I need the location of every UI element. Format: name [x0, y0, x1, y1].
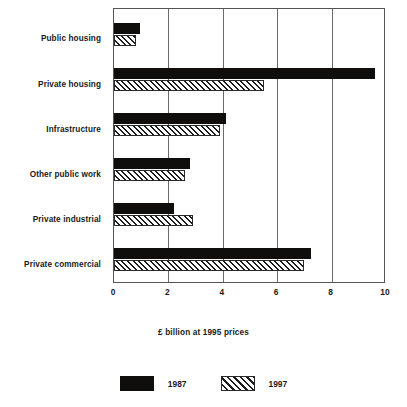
- legend-entry-1997: 1997: [221, 376, 288, 391]
- x-tick-6: 6: [274, 287, 279, 297]
- x-axis-tick-labels: 0 2 4 6 8 10: [113, 287, 385, 303]
- legend-solid-black-swatch-icon: [120, 376, 154, 391]
- x-axis-title: £ billion at 1995 prices: [0, 328, 407, 337]
- bar-1987-private-industrial: [114, 203, 174, 214]
- bar-1987-private-housing: [114, 68, 375, 79]
- category-axis-labels: Public housing Private housing Infrastru…: [0, 8, 107, 283]
- plot-area: [113, 8, 385, 283]
- category-label-private-commercial: Private commercial: [24, 260, 101, 269]
- bar-1997-private-industrial: [114, 215, 193, 226]
- bar-1987-public-housing: [114, 23, 140, 34]
- x-tick-0: 0: [111, 287, 116, 297]
- legend-label-1997: 1997: [269, 379, 288, 389]
- legend-label-1987: 1987: [168, 379, 187, 389]
- category-label-private-industrial: Private industrial: [33, 215, 101, 224]
- bar-1997-other-public-work: [114, 170, 185, 181]
- bar-1997-public-housing: [114, 35, 136, 46]
- bar-1987-private-commercial: [114, 248, 311, 259]
- x-tick-8: 8: [328, 287, 333, 297]
- bar-chart-figure: Public housing Private housing Infrastru…: [0, 0, 407, 407]
- category-label-private-housing: Private housing: [38, 80, 101, 89]
- x-tick-2: 2: [165, 287, 170, 297]
- x-tick-10: 10: [380, 287, 389, 297]
- bars-layer: [114, 9, 384, 282]
- category-label-public-housing: Public housing: [41, 34, 101, 43]
- bar-1997-private-housing: [114, 80, 264, 91]
- legend-entry-1987: 1987: [120, 376, 187, 391]
- x-tick-4: 4: [219, 287, 224, 297]
- bar-1997-private-commercial: [114, 260, 304, 271]
- category-label-infrastructure: Infrastructure: [46, 125, 101, 134]
- legend-hatched-swatch-icon: [221, 376, 255, 391]
- bar-1987-infrastructure: [114, 113, 226, 124]
- bar-1987-other-public-work: [114, 158, 190, 169]
- category-label-other-public-work: Other public work: [30, 170, 101, 179]
- bar-1997-infrastructure: [114, 125, 220, 136]
- chart-legend: 1987 1997: [0, 376, 407, 391]
